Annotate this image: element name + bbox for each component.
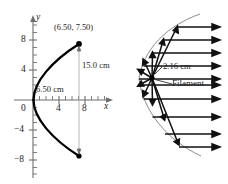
filament-point-marker bbox=[149, 75, 154, 80]
y-tick-label-neg8: −8 bbox=[14, 155, 24, 165]
y-tick-label-0: 0 bbox=[21, 104, 26, 114]
depth-dimension-label: 6.50 cm bbox=[36, 85, 64, 94]
x-axis-minor-ticks bbox=[40, 96, 105, 100]
x-tick-label-4: 4 bbox=[56, 104, 61, 114]
x-tick-label-8: 8 bbox=[82, 104, 87, 114]
focal-length-label: 2.16 cm bbox=[163, 62, 191, 71]
point-coordinate-label: (6.50, 7.50) bbox=[54, 24, 93, 32]
filament-label: Filament bbox=[172, 79, 204, 88]
y-axis-label: y bbox=[36, 13, 40, 23]
y-tick-label-4: 4 bbox=[21, 65, 26, 75]
y-tick-label-neg4: −4 bbox=[14, 125, 24, 135]
y-axis-arrowhead bbox=[30, 15, 36, 22]
x-axis-label: x bbox=[104, 102, 108, 112]
incident-rays-lower bbox=[138, 78, 180, 145]
figure-vector-graphics bbox=[0, 0, 228, 184]
height-dimension-label: 15.0 cm bbox=[82, 61, 110, 70]
y-tick-label-8: 8 bbox=[21, 35, 26, 45]
physics-figure-parabolic-reflector: y x 8 4 0 −4 −8 4 8 (6.50, 7.50) 15.0 cm… bbox=[0, 0, 228, 184]
